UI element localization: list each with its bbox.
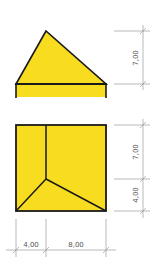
elevation-view: [15, 31, 107, 98]
base-strip: [16, 84, 106, 97]
plan-view: [16, 125, 106, 211]
plan-height-label-1: 7,00: [132, 144, 140, 160]
plan-width-label-2: 8,00: [68, 241, 84, 249]
plan-height-label-2: 4,00: [132, 187, 140, 203]
roof-triangle: [16, 31, 106, 84]
plan-square: [16, 125, 106, 211]
technical-drawing: 7,00 7,00 4,00 4,00 8,00: [0, 0, 164, 265]
plan-horizontal-dimension: [6, 219, 116, 257]
plan-width-label-1: 4,00: [23, 241, 39, 249]
elevation-height-label: 7,00: [132, 50, 140, 66]
